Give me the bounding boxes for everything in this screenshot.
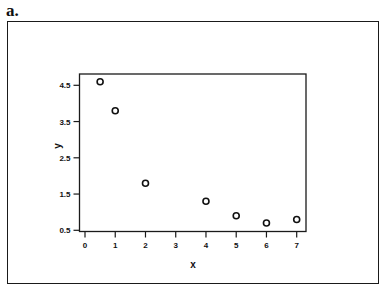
data-point xyxy=(294,216,300,222)
x-tick-label: 7 xyxy=(294,241,299,250)
y-tick-label: 4.5 xyxy=(59,81,71,90)
y-tick-label: 2.5 xyxy=(59,154,71,163)
x-tick-label: 4 xyxy=(204,241,209,250)
data-point xyxy=(263,220,269,226)
x-tick-label: 0 xyxy=(83,241,88,250)
y-axis: 0.51.52.53.54.5 xyxy=(59,81,79,235)
y-tick-label: 3.5 xyxy=(59,118,71,127)
x-tick-label: 5 xyxy=(234,241,239,250)
scatter-plot: 0.51.52.53.54.5 01234567 x y xyxy=(0,0,384,297)
y-tick-label: 0.5 xyxy=(59,226,71,235)
data-point xyxy=(97,79,103,85)
x-tick-label: 2 xyxy=(143,241,148,250)
x-tick-label: 3 xyxy=(174,241,179,250)
y-tick-label: 1.5 xyxy=(59,190,71,199)
data-point xyxy=(112,108,118,114)
y-axis-title: y xyxy=(52,143,63,149)
x-axis: 01234567 xyxy=(83,232,300,250)
x-tick-label: 6 xyxy=(264,241,269,250)
x-tick-label: 1 xyxy=(113,241,118,250)
data-point xyxy=(142,180,148,186)
x-axis-title: x xyxy=(190,259,196,270)
data-point xyxy=(203,198,209,204)
plot-area xyxy=(80,74,307,232)
data-point xyxy=(233,213,239,219)
plot-frame xyxy=(80,74,307,232)
data-points xyxy=(97,79,300,226)
